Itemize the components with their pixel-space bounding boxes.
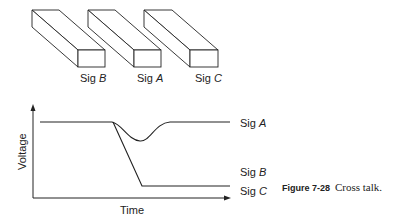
waveform-sig-c bbox=[113, 122, 230, 186]
trace-label-sig-b: Sig B bbox=[80, 72, 106, 84]
figure-caption: Cross talk. bbox=[335, 181, 382, 193]
waveform-label-sig-c: Sig C bbox=[240, 185, 267, 197]
trace-label-sig-a: Sig A bbox=[137, 72, 163, 84]
trace-label-sig-c: Sig C bbox=[195, 72, 222, 84]
figure-number: Figure 7-28 bbox=[282, 183, 330, 193]
y-axis-label: Voltage bbox=[16, 133, 28, 170]
waveform-sig-a bbox=[40, 122, 230, 141]
waveform-label-sig-a: Sig A bbox=[240, 117, 266, 129]
x-axis-label: Time bbox=[120, 204, 144, 216]
cross-talk-figure: Sig B Sig A Sig C Voltage Time Sig A Sig… bbox=[0, 0, 407, 223]
waveform-label-sig-b: Sig B bbox=[240, 166, 266, 178]
